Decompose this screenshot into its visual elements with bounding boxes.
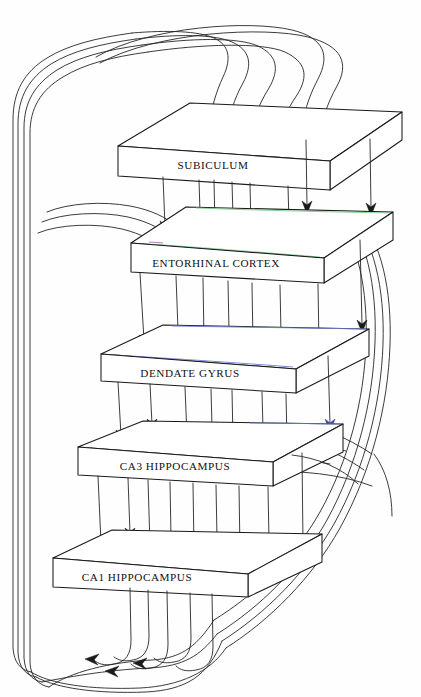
bottom-loop-group [31,620,226,692]
slab-ca1-hippocampus[interactable]: CA1 HIPPOCAMPUS [53,530,322,597]
proj-line-c1 [98,476,101,543]
entorhinal-cortex-label: ENTORHINAL CORTEX [152,257,280,269]
proj-line-c4 [170,482,171,536]
slab-ca3-hippocampus[interactable]: CA3 HIPPOCAMPUS [78,421,343,486]
ca1-out-4 [154,593,191,663]
ca1-hippocampus-label: CA1 HIPPOCAMPUS [82,571,193,583]
proj-line-e1 [140,273,144,340]
ca1-output-group [85,588,213,677]
slab-subiculum[interactable]: SUBICULUM [118,103,402,190]
proj-line-d1 [118,382,121,435]
hippocampal-circuit-figure: SUBICULUM [0,0,421,697]
subiculum-label: SUBICULUM [178,159,249,171]
ca1-out-2 [114,590,149,661]
slab-entorhinal-cortex[interactable]: ENTORHINAL CORTEX [131,207,393,283]
proj-line-s1 [163,177,165,226]
proj-line-c6 [216,485,217,538]
ca3-hippocampus-label: CA3 HIPPOCAMPUS [120,460,231,472]
ca1-out-3 [131,591,168,669]
proj-line-d4 [211,389,212,427]
dendate-gyrus-label: DENDATE GYRUS [140,367,239,379]
proj-line-e4 [228,281,229,331]
ca1-out-1 [94,588,131,665]
proj-line-e2 [176,276,178,330]
ca1-out-arrowhead-2 [105,666,119,677]
proj-line-e6 [280,285,281,333]
proj-line-c2 [128,478,130,533]
bottom-loop-4 [49,620,214,687]
ca1-out-arrowhead-1 [85,654,99,665]
bottom-loop-2 [36,641,222,692]
detail-stroke-1 [374,454,392,516]
hippocampus-diagram-canvas: SUBICULUM [0,0,421,697]
proj-line-d2 [150,384,152,424]
